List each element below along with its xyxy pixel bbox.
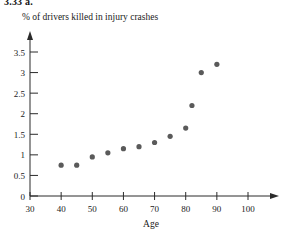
data-point	[214, 62, 219, 67]
y-axis-group: 00.511.522.533.5	[14, 31, 38, 202]
figure-container: 3.33 a. % of drivers killed in injury cr…	[0, 0, 287, 238]
data-point	[59, 163, 64, 168]
x-tick-label: 100	[241, 204, 255, 214]
x-tick-group: 30405060708090100	[26, 192, 256, 214]
x-tick-label: 40	[57, 204, 67, 214]
data-point	[189, 103, 194, 108]
data-point	[105, 150, 110, 155]
x-tick-label: 70	[150, 204, 160, 214]
y-tick-label: 3	[21, 68, 26, 78]
data-point-group	[59, 62, 220, 168]
data-point	[136, 144, 141, 149]
scatter-plot: 00.511.522.533.5 30405060708090100 Age	[0, 0, 287, 238]
y-tick-label: 3.5	[14, 48, 26, 58]
x-axis-arrowhead	[270, 193, 279, 199]
data-point	[199, 70, 204, 75]
y-axis-arrowhead	[27, 31, 33, 40]
x-axis-label: Age	[143, 219, 159, 229]
data-point	[168, 134, 173, 139]
x-tick-label: 80	[181, 204, 191, 214]
y-tick-label: 0	[21, 192, 26, 202]
y-tick-label: 0.5	[14, 171, 26, 181]
y-tick-label: 2.5	[14, 89, 26, 99]
x-tick-label: 50	[88, 204, 98, 214]
data-point	[90, 154, 95, 159]
data-point	[183, 126, 188, 131]
x-tick-label: 60	[119, 204, 129, 214]
y-tick-label: 1	[21, 150, 26, 160]
y-tick-label: 1.5	[14, 130, 26, 140]
data-point	[121, 146, 126, 151]
x-tick-label: 30	[26, 204, 36, 214]
x-axis-group: 30405060708090100	[26, 192, 280, 214]
data-point	[74, 163, 79, 168]
data-point	[152, 140, 157, 145]
y-tick-label: 2	[21, 109, 26, 119]
x-tick-label: 90	[212, 204, 222, 214]
y-tick-group: 00.511.522.533.5	[14, 48, 38, 202]
